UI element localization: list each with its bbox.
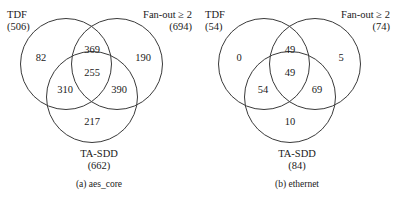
- region-value-all-three: 49: [285, 68, 296, 79]
- region-value-tdf-tasdd: 54: [258, 85, 269, 96]
- set-label-fanout: Fan-out ≥ 2 (74): [341, 9, 390, 32]
- set-label-fanout-name: Fan-out ≥ 2: [143, 9, 192, 21]
- set-label-tdf-name: TDF: [7, 9, 30, 21]
- circle-fanout: [72, 19, 163, 110]
- set-label-tasdd-count: (84): [198, 160, 396, 172]
- circle-tasdd: [245, 52, 336, 143]
- region-value-tdf-fanout: 369: [84, 45, 100, 56]
- region-value-fanout-tasdd: 390: [111, 85, 127, 96]
- region-value-fanout-tasdd: 69: [312, 85, 323, 96]
- set-label-tdf: TDF (54): [205, 9, 225, 32]
- set-label-fanout-count: (694): [143, 21, 192, 33]
- venn-panel-b: TDF (54) Fan-out ≥ 2 (74) TA-SDD (84) 0 …: [198, 0, 396, 203]
- panel-caption-b: (b) ethernet: [198, 179, 396, 190]
- venn-panel-a: TDF (506) Fan-out ≥ 2 (694) TA-SDD (662)…: [0, 0, 198, 203]
- set-label-tasdd: TA-SDD (84): [198, 148, 396, 171]
- circle-tasdd: [47, 52, 138, 143]
- panel-caption-a: (a) aes_core: [0, 179, 198, 190]
- region-value-tasdd-only: 217: [84, 117, 100, 128]
- set-label-tdf-count: (506): [7, 21, 30, 33]
- venn-figure-row: TDF (506) Fan-out ≥ 2 (694) TA-SDD (662)…: [0, 0, 397, 203]
- set-label-tdf: TDF (506): [7, 9, 30, 32]
- set-label-tasdd: TA-SDD (662): [0, 148, 198, 171]
- region-value-tasdd-only: 10: [285, 117, 296, 128]
- circle-tdf: [219, 19, 310, 110]
- region-value-all-three: 255: [84, 68, 100, 79]
- region-value-tdf-only: 82: [36, 53, 47, 64]
- set-label-tasdd-count: (662): [0, 160, 198, 172]
- region-value-tdf-fanout: 49: [285, 45, 296, 56]
- circle-tdf: [21, 19, 112, 110]
- region-value-tdf-only: 0: [236, 53, 241, 64]
- set-label-fanout-name: Fan-out ≥ 2: [341, 9, 390, 21]
- region-value-tdf-tasdd: 310: [57, 85, 73, 96]
- set-label-fanout: Fan-out ≥ 2 (694): [143, 9, 192, 32]
- set-label-tdf-name: TDF: [205, 9, 225, 21]
- circle-fanout: [270, 19, 361, 110]
- set-label-tasdd-name: TA-SDD: [0, 148, 198, 160]
- set-label-tdf-count: (54): [205, 21, 225, 33]
- set-label-fanout-count: (74): [341, 21, 390, 33]
- region-value-fanout-only: 190: [135, 53, 151, 64]
- set-label-tasdd-name: TA-SDD: [198, 148, 396, 160]
- region-value-fanout-only: 5: [338, 53, 343, 64]
